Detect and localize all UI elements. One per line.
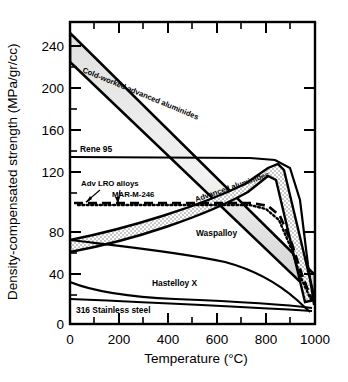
- y-tick-label-40: 40: [49, 267, 64, 282]
- x-tick-label-0: 0: [66, 332, 74, 347]
- y-tick-label-160: 160: [41, 123, 64, 138]
- y-axis-title: Density-compensated strength (MPa/gr/cc): [5, 43, 20, 300]
- y-tick-label-200: 200: [41, 81, 64, 96]
- x-tick-label-200: 200: [108, 332, 131, 347]
- x-tick-label-1000: 1000: [300, 332, 330, 347]
- chart-figure: Density-compensated strength (MPa/gr/cc)…: [0, 0, 348, 382]
- curve-label-waspalloy: Waspalloy: [196, 228, 237, 238]
- x-tick-label-800: 800: [255, 332, 278, 347]
- curve-label-hastelloy-x: Hastelloy X: [152, 278, 198, 288]
- x-axis-title: Temperature (°C): [144, 351, 248, 366]
- curve-label-316-stainless-steel: 316 Stainless steel: [76, 305, 151, 315]
- y-tick-label-120: 120: [41, 165, 64, 180]
- chart-svg: Density-compensated strength (MPa/gr/cc)…: [0, 0, 348, 382]
- x-tick-label-400: 400: [157, 332, 180, 347]
- y-tick-label-240: 240: [41, 39, 64, 54]
- x-tick-label-600: 600: [206, 332, 229, 347]
- curve-label-rene-95: Rene 95: [80, 144, 112, 154]
- y-tick-label-80: 80: [49, 225, 64, 240]
- annotation-label-adv-lro-alloys: Adv LRO alloys: [81, 179, 139, 188]
- y-tick-label-0: 0: [56, 317, 64, 332]
- annotation-label-mar-m-246: MAR-M-246: [112, 190, 155, 199]
